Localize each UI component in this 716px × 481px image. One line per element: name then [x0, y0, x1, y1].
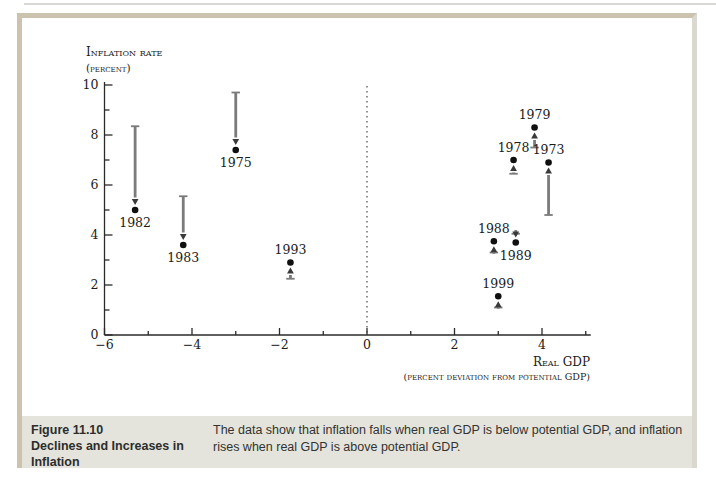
- data-dot: [512, 239, 519, 246]
- tick-labels: 0246810−6−4−2024: [83, 77, 546, 351]
- x-axis-title-line2: (percent deviation from potential GDP): [404, 371, 590, 382]
- y-tick-label: 6: [91, 177, 99, 192]
- x-axis-title: Real GDP(percent deviation from potentia…: [404, 355, 590, 382]
- x-tick-label: 2: [451, 337, 459, 352]
- data-dot: [545, 159, 552, 166]
- arrow-head: [510, 165, 517, 171]
- y-axis-title: Inflation rate(percent): [86, 45, 163, 74]
- data-point-1975: 1975: [220, 93, 252, 171]
- year-label: 1999: [482, 276, 514, 291]
- arrow-head: [180, 234, 187, 240]
- arrow-head: [490, 246, 497, 252]
- data-dot: [132, 207, 139, 214]
- x-tick-label: −2: [270, 337, 288, 352]
- data-dot: [510, 157, 517, 164]
- inflation-gdp-chart: 0246810−6−4−2024Inflation rate(percent)R…: [0, 0, 716, 481]
- data-point-1983: 1983: [167, 196, 199, 265]
- data-dot: [495, 293, 502, 300]
- data-dot: [180, 242, 187, 249]
- y-tick-label: 8: [91, 127, 99, 142]
- textbook-page: Figure 11.10 Declines and Increases in I…: [0, 0, 716, 481]
- y-axis-title-line2: (percent): [86, 62, 131, 74]
- year-label: 1989: [500, 248, 532, 263]
- x-tick-label: −6: [95, 337, 113, 352]
- data-dot: [287, 259, 294, 266]
- arrow-head: [232, 139, 239, 145]
- y-axis-title-line1: Inflation rate: [86, 45, 163, 59]
- data-point-1982: 1982: [119, 126, 151, 230]
- arrow-head: [132, 199, 139, 205]
- data-point-1978: 1978: [498, 140, 530, 174]
- year-label: 1978: [498, 140, 530, 155]
- year-label: 1983: [167, 250, 199, 265]
- x-tick-label: 4: [538, 337, 546, 352]
- year-label: 1988: [478, 221, 510, 236]
- y-tick-label: 4: [91, 227, 99, 242]
- x-tick-label: 0: [363, 337, 371, 352]
- year-label: 1993: [275, 242, 307, 257]
- data-point-1999: 1999: [482, 276, 514, 309]
- arrow-head: [495, 301, 502, 307]
- y-tick-label: 2: [91, 277, 99, 292]
- x-axis-title-line1: Real GDP: [533, 355, 590, 369]
- x-tick-label: −4: [183, 337, 201, 352]
- arrow-head: [287, 268, 294, 274]
- year-label: 1979: [519, 107, 551, 122]
- arrow-head: [531, 133, 538, 139]
- arrow-head: [545, 168, 552, 174]
- data-dot: [531, 124, 538, 131]
- year-label: 1982: [119, 215, 151, 230]
- data-point-1973: 1973: [533, 142, 565, 215]
- year-label: 1973: [533, 142, 565, 157]
- data-point-1993: 1993: [275, 242, 307, 279]
- data-dot: [491, 238, 498, 245]
- y-tick-label: 10: [83, 77, 99, 92]
- year-label: 1975: [220, 155, 252, 170]
- data-dot: [232, 147, 239, 154]
